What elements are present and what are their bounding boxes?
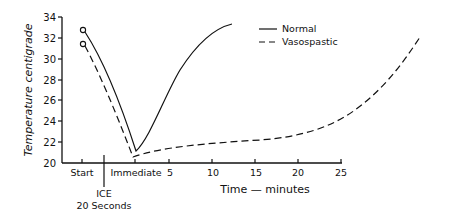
svg-text:15: 15: [250, 167, 262, 178]
svg-text:Immediate: Immediate: [110, 167, 161, 178]
svg-text:Start: Start: [70, 167, 93, 178]
y-axis-label: Temperature centigrade: [22, 23, 35, 156]
svg-text:32: 32: [43, 33, 56, 44]
svg-text:22: 22: [43, 137, 56, 148]
y-tick-labels: 34 32 30 28 26 24 22 20: [43, 12, 56, 169]
svg-text:Normal: Normal: [282, 23, 316, 34]
series-vasospastic: [85, 37, 420, 157]
series-normal: [85, 24, 232, 151]
svg-text:34: 34: [43, 12, 56, 23]
svg-text:20: 20: [43, 158, 56, 169]
ice-sublabel: 20 Seconds: [76, 200, 131, 211]
svg-text:10: 10: [207, 167, 219, 178]
svg-text:5: 5: [167, 167, 173, 178]
legend: Normal Vasospastic: [259, 23, 338, 47]
x-tick-labels: Start Immediate 5 10 15 20 25: [70, 167, 347, 178]
svg-text:20: 20: [292, 167, 304, 178]
svg-text:Vasospastic: Vasospastic: [282, 36, 338, 47]
svg-text:25: 25: [335, 167, 347, 178]
chart: 34 32 30 28 26 24 22 20 Temperature cent…: [0, 0, 456, 216]
normal-start-marker: [80, 27, 85, 32]
x-axis-label: Time — minutes: [219, 183, 310, 196]
vasospastic-start-marker: [80, 41, 85, 46]
ice-label: ICE: [96, 188, 111, 199]
svg-text:28: 28: [43, 75, 56, 86]
svg-text:24: 24: [43, 116, 56, 127]
svg-text:30: 30: [43, 54, 56, 65]
svg-text:26: 26: [43, 95, 56, 106]
